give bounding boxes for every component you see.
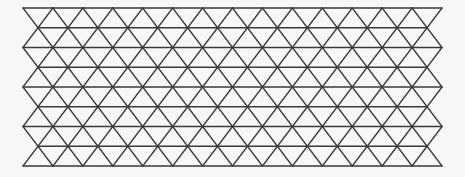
diagonal-grid-line (128, 127, 143, 147)
diagonal-grid-line (397, 67, 412, 87)
diagonal-grid-line (98, 87, 113, 107)
diagonal-grid-line (83, 127, 98, 147)
diagonal-grid-line (248, 67, 263, 87)
diagonal-grid-line (307, 8, 322, 28)
diagonal-grid-line (158, 146, 173, 166)
diagonal-grid-line (128, 107, 143, 127)
diagonal-grid-line (98, 8, 113, 28)
diagonal-grid-line (352, 127, 367, 147)
diagonal-grid-line (23, 28, 38, 48)
diagonal-grid-line (23, 48, 38, 68)
diagonal-grid-line (143, 127, 158, 147)
diagonal-grid-line (262, 127, 277, 147)
diagonal-grid-line (113, 48, 128, 68)
diagonal-grid-line (218, 48, 233, 68)
diagonal-grid-line (188, 67, 203, 87)
diagonal-grid-line (188, 8, 203, 28)
diagonal-grid-line (98, 107, 113, 127)
diagonal-grid-line (292, 48, 307, 68)
diagonal-grid-line (38, 107, 53, 127)
diagonal-grid-line (277, 146, 292, 166)
diagonal-grid-line (277, 107, 292, 127)
diagonal-grid-line (292, 146, 307, 166)
diagonal-grid-line (113, 87, 128, 107)
diagonal-grid-line (277, 28, 292, 48)
diagonal-grid-line (292, 67, 307, 87)
diagonal-grid-line (173, 8, 188, 28)
diagonal-grid-line (307, 146, 322, 166)
diagonal-grid-line (248, 87, 263, 107)
diagonal-grid-line (188, 107, 203, 127)
diagonal-grid-line (307, 127, 322, 147)
triangle-grid-canvas (0, 0, 465, 177)
diagonal-grid-line (337, 48, 352, 68)
diagonal-grid-line (173, 146, 188, 166)
diagonal-grid-line (397, 87, 412, 107)
diagonal-grid-line (68, 8, 83, 28)
diagonal-grid-line (277, 8, 292, 28)
diagonal-grid-line (233, 48, 248, 68)
diagonal-grid-line (412, 48, 427, 68)
diagonal-grid-line (427, 127, 442, 147)
diagonal-grid-line (83, 146, 98, 166)
diagonal-grid-line (38, 67, 53, 87)
diagonal-grid-line (188, 87, 203, 107)
diagonal-grid-line (173, 107, 188, 127)
diagonal-grid-line (53, 146, 68, 166)
diagonal-grid-line (262, 48, 277, 68)
diagonal-grid-line (337, 67, 352, 87)
diagonal-grid-line (98, 146, 113, 166)
diagonal-grid-line (98, 127, 113, 147)
diagonal-grid-line (322, 146, 337, 166)
diagonal-grid-line (397, 28, 412, 48)
diagonal-grid-line (143, 107, 158, 127)
diagonal-grid-line (53, 28, 68, 48)
diagonal-grid-line (412, 146, 427, 166)
diagonal-grid-line (262, 67, 277, 87)
diagonal-grid-line (367, 146, 382, 166)
diagonal-grid-line (113, 107, 128, 127)
diagonal-grid-line (173, 127, 188, 147)
diagonal-grid-line (397, 48, 412, 68)
diagonal-grid-line (158, 87, 173, 107)
diagonal-grid-line (352, 8, 367, 28)
diagonal-grid-line (113, 146, 128, 166)
diagonal-grid-line (382, 146, 397, 166)
diagonal-grid-line (173, 48, 188, 68)
diagonal-grid-line (53, 67, 68, 87)
diagonal-grid-line (113, 8, 128, 28)
diagonal-grid-line (233, 146, 248, 166)
diagonal-grid-line (382, 67, 397, 87)
diagonal-grid-line (68, 127, 83, 147)
diagonal-grid-line (262, 146, 277, 166)
diagonal-grid-line (53, 48, 68, 68)
diagonal-grid-line (292, 28, 307, 48)
diagonal-grid-line (158, 67, 173, 87)
diagonal-grid-line (262, 28, 277, 48)
diagonal-grid-line (68, 67, 83, 87)
diagonal-grid-line (277, 67, 292, 87)
diagonal-grid-line (83, 87, 98, 107)
diagonal-grid-line (352, 87, 367, 107)
diagonal-grid-line (322, 28, 337, 48)
diagonal-grid-line (322, 127, 337, 147)
diagonal-grid-line (427, 8, 442, 28)
diagonal-grid-line (113, 28, 128, 48)
diagonal-grid-line (218, 87, 233, 107)
diagonal-grid-line (233, 67, 248, 87)
diagonal-grid-line (98, 48, 113, 68)
diagonal-grid-line (203, 28, 218, 48)
diagonal-grid-line (143, 28, 158, 48)
diagonal-grid-line (53, 127, 68, 147)
diagonal-grid-line (322, 107, 337, 127)
diagonal-grid-line (23, 107, 38, 127)
diagonal-grid-line (427, 146, 442, 166)
diagonal-grid-line (158, 107, 173, 127)
diagonal-grid-line (262, 87, 277, 107)
diagonal-grid-line (352, 48, 367, 68)
diagonal-grid-line (397, 127, 412, 147)
diagonal-grid-line (218, 127, 233, 147)
diagonal-grid-line (412, 107, 427, 127)
diagonal-grid-line (277, 87, 292, 107)
diagonal-grid-line (83, 107, 98, 127)
